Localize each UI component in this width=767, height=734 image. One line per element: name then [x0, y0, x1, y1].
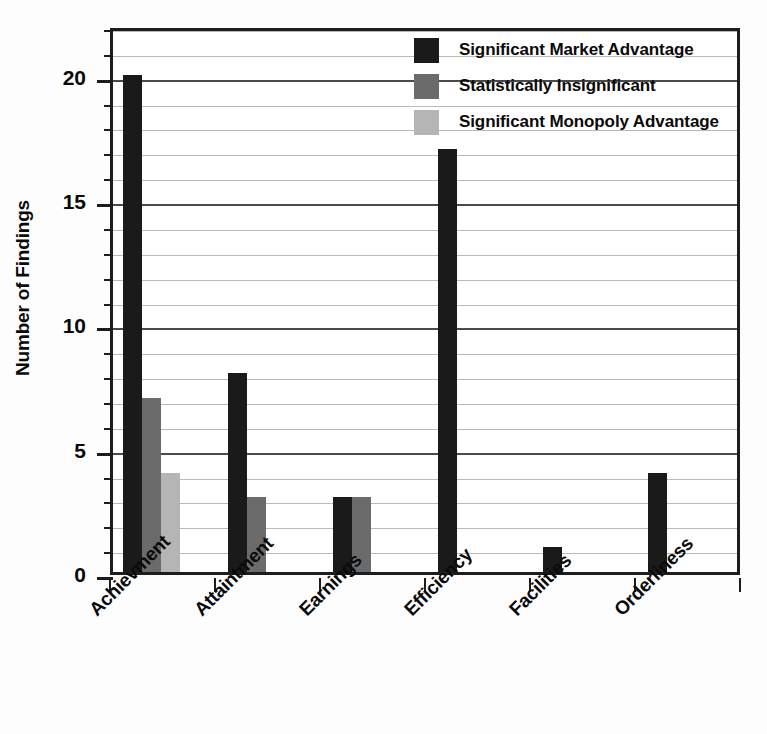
y-axis-tick-minor [104, 353, 113, 355]
bar [438, 149, 457, 572]
gridline-minor [113, 479, 737, 480]
gridline-major [113, 453, 737, 455]
gridline-minor [113, 503, 737, 504]
legend-item: Significant Market Advantage [414, 32, 719, 68]
y-axis-tick-minor [104, 552, 113, 554]
gridline-minor [113, 180, 737, 181]
gridline-minor [113, 305, 737, 306]
gridline-minor [113, 354, 737, 355]
y-axis-tick-minor [104, 428, 113, 430]
y-axis-tick-major [97, 328, 113, 331]
y-axis-tick-major [97, 204, 113, 207]
y-axis-tick-minor [104, 154, 113, 156]
y-axis-tick-minor [104, 378, 113, 380]
gridline-minor [113, 553, 737, 554]
gridline-minor [113, 230, 737, 231]
y-axis-tick-minor [104, 55, 113, 57]
y-axis-tick-minor [104, 279, 113, 281]
legend-item: Statistically Insignificant [414, 68, 719, 104]
y-axis-title-text: Number of Findings [12, 200, 34, 376]
y-axis-tick-major [97, 453, 113, 456]
y-axis-tick-minor [104, 254, 113, 256]
y-axis-tick-minor [104, 105, 113, 107]
y-axis-tick-label: 5 [16, 439, 86, 463]
y-axis-tick-minor [104, 30, 113, 32]
y-axis-tick-minor [104, 527, 113, 529]
gridline-minor [113, 255, 737, 256]
gridline-minor [113, 280, 737, 281]
gridline-minor [113, 155, 737, 156]
y-axis-tick-label: 0 [16, 563, 86, 587]
y-axis-tick-label: 15 [16, 190, 86, 214]
y-axis-tick-label: 20 [16, 66, 86, 90]
bar-chart-figure: Number of Findings Significant Market Ad… [0, 0, 767, 734]
legend-swatch-dark-gray [414, 74, 439, 99]
gridline-minor [113, 404, 737, 405]
x-axis-tick [739, 578, 741, 592]
gridline-minor [113, 528, 737, 529]
y-axis-tick-minor [104, 304, 113, 306]
legend-item: Significant Monopoly Advantage [414, 104, 719, 140]
y-axis-tick-minor [104, 502, 113, 504]
gridline-minor [113, 379, 737, 380]
y-axis-tick-minor [104, 403, 113, 405]
gridline-minor [113, 429, 737, 430]
chart-legend: Significant Market AdvantageStatisticall… [414, 32, 719, 140]
legend-swatch-light-gray [414, 110, 439, 135]
gridline-major [113, 328, 737, 330]
legend-item-label: Significant Market Advantage [459, 40, 694, 60]
bar [228, 373, 247, 572]
y-axis-tick-major [97, 80, 113, 83]
legend-swatch-black [414, 38, 439, 63]
y-axis-tick-minor [104, 229, 113, 231]
legend-item-label: Statistically Insignificant [459, 76, 656, 96]
y-axis-tick-label: 10 [16, 314, 86, 338]
gridline-major [113, 204, 737, 206]
legend-item-label: Significant Monopoly Advantage [459, 112, 719, 132]
bar [123, 75, 142, 572]
y-axis-tick-minor [104, 129, 113, 131]
y-axis-tick-minor [104, 478, 113, 480]
y-axis-tick-minor [104, 179, 113, 181]
